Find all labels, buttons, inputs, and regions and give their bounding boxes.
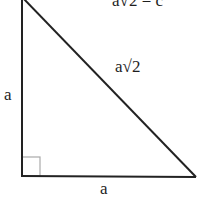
bottom-leg-label: a (100, 180, 108, 197)
equation-label: a√2 = c (112, 0, 163, 9)
left-leg-label: a (4, 86, 12, 103)
bottom-leg-line (21, 176, 196, 177)
hypotenuse-line (22, 0, 196, 177)
right-angle-marker (22, 157, 40, 176)
right-triangle-diagram (0, 0, 198, 199)
hypotenuse-label: a√2 (115, 58, 140, 75)
